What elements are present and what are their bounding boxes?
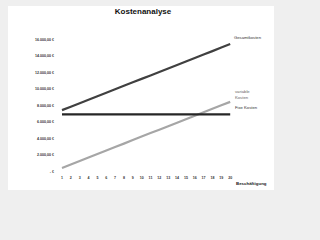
label-variable-kosten-1: variable [235, 89, 250, 94]
x-axis-title: Beschäftigung [236, 181, 267, 186]
series-line [62, 44, 230, 110]
label-fixe-kosten: Fixe Kosten [235, 105, 257, 110]
label-variable-kosten-2: Kosten [235, 95, 248, 100]
label-gesamtkosten: Gesamtkosten [234, 35, 261, 40]
series-line [62, 102, 230, 168]
